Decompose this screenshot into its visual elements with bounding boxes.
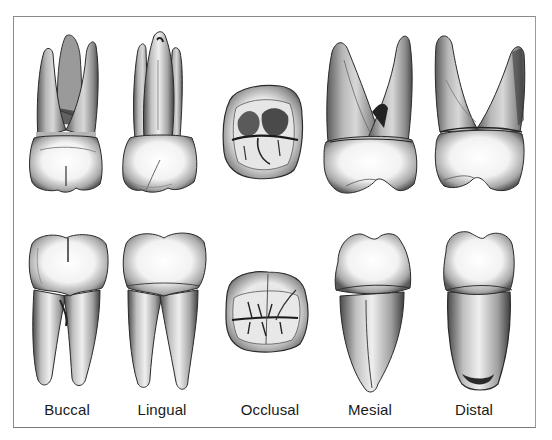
tooth-illustrations [0,0,552,440]
tooth-bottom-mesial [335,234,411,392]
tooth-top-lingual [123,32,197,192]
label-buccal: Buccal [44,401,90,418]
label-distal: Distal [455,401,493,418]
label-occlusal: Occlusal [241,401,299,418]
tooth-bottom-occlusal [226,272,308,352]
tooth-bottom-lingual [123,233,206,389]
tooth-top-distal [435,36,525,191]
tooth-top-mesial [324,36,417,193]
tooth-bottom-buccal [29,235,108,386]
tooth-top-occlusal [223,86,302,179]
label-lingual: Lingual [137,401,186,418]
tooth-top-buccal [30,35,103,192]
label-mesial: Mesial [348,401,392,418]
tooth-bottom-distal [444,232,514,390]
